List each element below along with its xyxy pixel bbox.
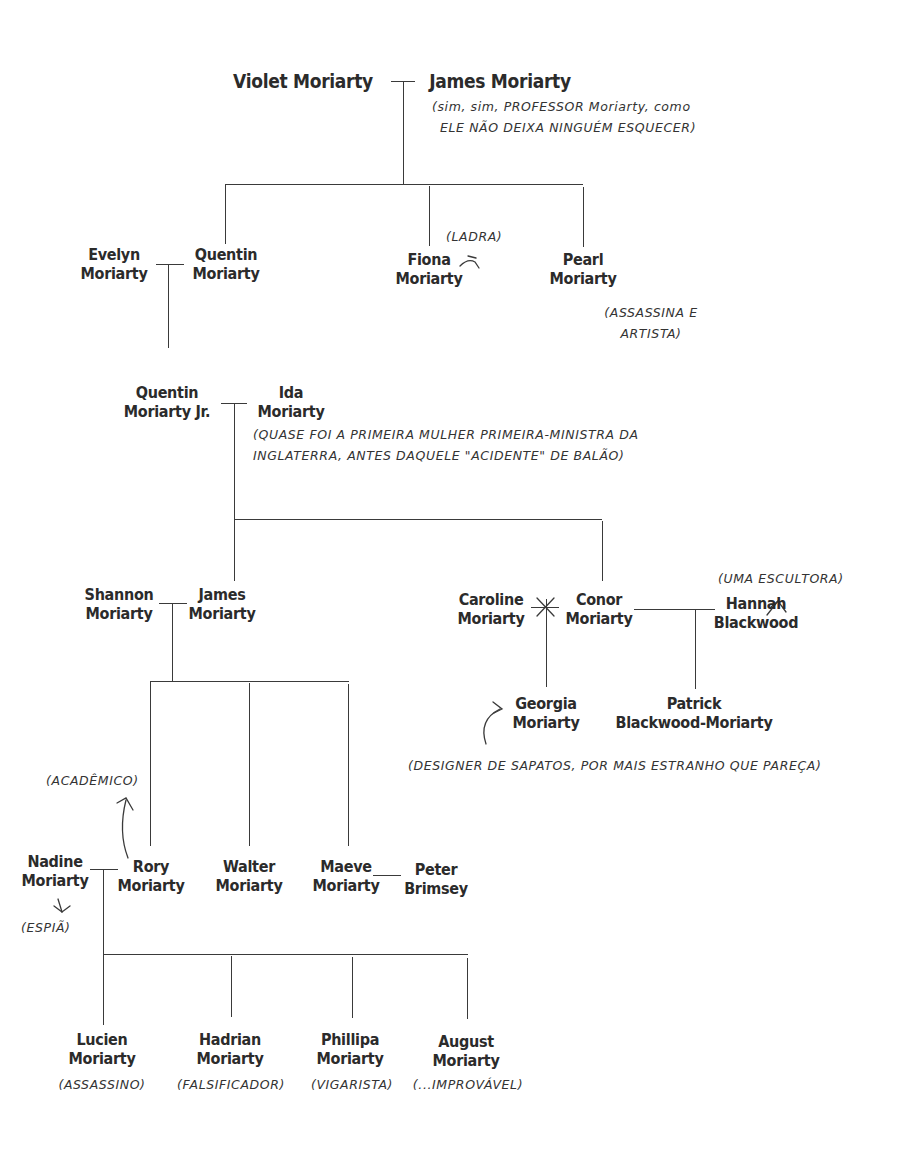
person-name-line: Moriarty	[458, 609, 525, 628]
person-phillipa-moriarty: Phillipa Moriarty	[317, 1030, 384, 1068]
marriage-line-caroline-conor	[531, 607, 559, 608]
person-name-line: Moriarty	[396, 269, 463, 288]
person-ida-moriarty: Ida Moriarty	[258, 383, 325, 421]
person-name-line: Moriarty	[81, 264, 148, 283]
note-line: artista)	[604, 323, 698, 344]
curved-arrow-icon	[484, 709, 500, 744]
person-evelyn-moriarty: Evelyn Moriarty	[81, 245, 148, 283]
person-name-line: Maeve	[313, 857, 380, 876]
person-name-line: Lucien	[69, 1030, 136, 1049]
note-nadine: (espiã)	[21, 917, 71, 938]
person-name-line: Moriarty	[85, 604, 154, 623]
note-line: (sim, sim, PROFESSOR Moriarty, como	[432, 96, 696, 117]
descent-line-patrick	[695, 609, 696, 689]
person-name-line: Georgia	[513, 694, 580, 713]
note-fiona: (ladra)	[446, 226, 502, 247]
descent-line-gen4	[172, 603, 173, 682]
drop-fiona	[429, 186, 430, 246]
person-name-line: Moriarty	[216, 876, 283, 895]
drop-pearl	[583, 187, 584, 247]
person-hannah-blackwood: Hannah Blackwood	[714, 594, 798, 632]
note-august: (...improvável)	[413, 1074, 523, 1095]
note-georgia: (designer de sapatos, por mais estranho …	[408, 755, 821, 776]
person-name-line: Moriarty	[550, 269, 617, 288]
person-name-line: Ida	[258, 383, 325, 402]
note-lucien: (assassino)	[58, 1074, 145, 1095]
person-name-line: Moriarty	[566, 609, 633, 628]
person-fiona-moriarty: Fiona Moriarty	[396, 250, 463, 288]
person-name-line: Moriarty	[118, 876, 185, 895]
person-patrick-blackwood-moriarty: Patrick Blackwood-Moriarty	[616, 694, 773, 732]
person-walter-moriarty: Walter Moriarty	[216, 857, 283, 895]
person-name-line: Moriarty	[513, 713, 580, 732]
note-line: (quase foi a primeira mulher primeira-mi…	[253, 424, 639, 445]
note-james-professor: (sim, sim, PROFESSOR Moriarty, como ele …	[432, 96, 696, 138]
descent-line-gen2	[168, 264, 169, 348]
note-ida: (quase foi a primeira mulher primeira-mi…	[253, 424, 639, 466]
person-hadrian-moriarty: Hadrian Moriarty	[197, 1030, 264, 1068]
note-line: Inglaterra, antes daquele "acidente" de …	[253, 445, 639, 466]
drop-walter	[249, 683, 250, 846]
person-name-line: Pearl	[550, 250, 617, 269]
person-august-moriarty: August Moriarty	[433, 1032, 500, 1070]
note-rory: (acadêmico)	[46, 770, 139, 791]
note-hadrian: (falsificador)	[177, 1074, 285, 1095]
drop-phillipa	[352, 957, 353, 1018]
person-name-line: Quentin	[193, 245, 260, 264]
drop-maeve	[348, 684, 349, 846]
person-name-line: Conor	[566, 590, 633, 609]
person-name-line: Peter	[404, 860, 468, 879]
drop-hadrian	[231, 956, 232, 1017]
note-line: (assassina e	[604, 302, 698, 323]
sibling-bar-gen4	[234, 519, 602, 520]
person-name-line: August	[433, 1032, 500, 1051]
note-phillipa: (vigarista)	[311, 1074, 393, 1095]
person-name-line: James Moriarty	[429, 70, 571, 92]
person-maeve-moriarty: Maeve Moriarty	[313, 857, 380, 895]
marriage-line-evelyn-quentin	[156, 264, 184, 265]
person-shannon-moriarty: Shannon Moriarty	[85, 585, 154, 623]
sibling-bar-gen2	[225, 184, 583, 185]
person-name-line: James	[189, 585, 256, 604]
person-name-line: Moriarty	[433, 1051, 500, 1070]
person-rory-moriarty: Rory Moriarty	[118, 857, 185, 895]
person-name-line: Moriarty	[258, 402, 325, 421]
descent-line-gen3	[234, 403, 235, 581]
curved-arrow-icon	[122, 800, 128, 858]
person-name-line: Violet Moriarty	[233, 70, 373, 92]
person-name-line: Moriarty	[69, 1049, 136, 1068]
person-name-line: Evelyn	[81, 245, 148, 264]
drop-conor	[602, 521, 603, 581]
person-name-line: Moriarty	[313, 876, 380, 895]
person-nadine-moriarty: Nadine Moriarty	[22, 852, 89, 890]
person-name-line: Brimsey	[404, 879, 468, 898]
person-name-line: Moriarty	[22, 871, 89, 890]
person-name-line: Hannah	[714, 594, 798, 613]
person-name-line: Moriarty	[189, 604, 256, 623]
descent-line-gen5	[103, 869, 104, 1025]
person-name-line: Shannon	[85, 585, 154, 604]
person-name-line: Walter	[216, 857, 283, 876]
person-peter-brimsey: Peter Brimsey	[404, 860, 468, 898]
person-pearl-moriarty: Pearl Moriarty	[550, 250, 617, 288]
note-hannah: (uma escultora)	[718, 568, 844, 589]
sibling-bar-gen6	[103, 954, 468, 955]
drop-august	[467, 958, 468, 1019]
marriage-line-conor-hannah	[634, 609, 715, 610]
person-conor-moriarty: Conor Moriarty	[566, 590, 633, 628]
person-name-line: Caroline	[458, 590, 525, 609]
person-name-line: Moriarty	[197, 1049, 264, 1068]
person-james-moriarty: James Moriarty	[189, 585, 256, 623]
arrow-down-icon	[58, 899, 70, 912]
person-name-line: Hadrian	[197, 1030, 264, 1049]
drop-quentin	[225, 184, 226, 244]
note-pearl: (assassina e artista)	[604, 302, 698, 344]
person-name-line: Nadine	[22, 852, 89, 871]
descent-line-georgia	[546, 599, 547, 687]
person-name-line: Patrick	[616, 694, 773, 713]
person-name-line: Rory	[118, 857, 185, 876]
family-tree-diagram: Violet Moriarty James Moriarty (sim, sim…	[0, 0, 922, 1155]
person-caroline-moriarty: Caroline Moriarty	[458, 590, 525, 628]
person-name-line: Moriarty	[317, 1049, 384, 1068]
person-name-line: Moriarty Jr.	[124, 402, 210, 421]
